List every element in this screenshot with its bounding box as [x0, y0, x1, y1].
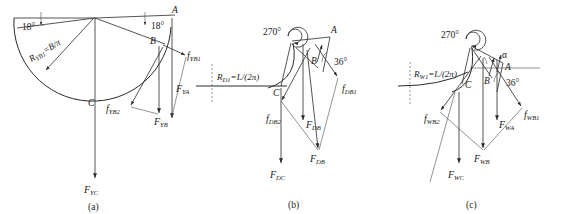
panel-b-radius-label: RD1=L/(2π) — [216, 72, 259, 83]
panel-a-parallelogram-1 — [131, 107, 158, 114]
figure-canvas: 18° 18° A B C RYB1=B/π fYB1 FYA FYB fYB2… — [0, 0, 562, 214]
panel-b-force-FDB-upper: FDB — [305, 119, 321, 131]
panel-a-angle-left: 18° — [22, 22, 36, 32]
panel-c-point-B: B — [484, 76, 490, 86]
panel-b-fDB2-vector — [282, 48, 310, 100]
panel-b-A-to-B — [323, 37, 330, 72]
panel-a-force-FYA: FYA — [175, 83, 190, 95]
panel-a-point-A: A — [171, 5, 178, 15]
panel-c-parallelogram-1 — [440, 112, 483, 150]
panel-a-radius-label: RYB1=B/π — [26, 37, 63, 65]
panel-c-fWB2-vector — [441, 56, 481, 110]
panel-b-curve — [268, 43, 294, 88]
panel-c-force-FWA: FWA — [498, 119, 515, 131]
panel-c-force-fWB2: fWB2 — [424, 113, 440, 125]
panel-c-point-C: C — [465, 80, 472, 90]
panel-b-force-fDB2: fDB2 — [266, 113, 282, 125]
svg-text:RYB1=B/π: RYB1=B/π — [26, 37, 63, 65]
panel-b-angle-270: 270° — [263, 27, 281, 37]
panel-a-radius-rest: =B/π — [41, 37, 62, 55]
panel-a-force-fYB2: fYB2 — [106, 103, 120, 115]
panel-c-caption: (c) — [466, 200, 477, 211]
panel-b-point-A: A — [330, 25, 337, 35]
panel-b-parallelogram-2 — [319, 78, 338, 150]
panel-a-caption: (a) — [88, 202, 99, 213]
panel-b-force-FDB-lower: FDB — [309, 153, 325, 165]
panel-b: 270° 36° A B C RD1=L/(2π) fDB1 FDB fDB2 … — [196, 25, 357, 211]
panel-b-top-chord — [292, 37, 330, 41]
panel-a-point-B: B — [150, 36, 156, 46]
panel-a-angle-right: 18° — [151, 21, 165, 31]
panel-b-apex-to-C — [281, 43, 291, 86]
panel-c-alpha-arc — [484, 57, 487, 64]
panel-b-angle-36: 36° — [334, 57, 348, 67]
panel-b-force-FDC: FDC — [269, 169, 286, 181]
panel-a-point-C: C — [88, 98, 95, 108]
panel-a-force-FYC: FYC — [83, 184, 99, 196]
panel-c: 270° α 36° A B C RW1=L/(2π) fWB1 FWA fWB… — [398, 30, 540, 211]
panel-c-force-FWB: FWB — [473, 153, 490, 165]
panel-a-top-chord — [14, 15, 175, 18]
panel-c-angle-270: 270° — [441, 30, 459, 40]
panel-b-point-B: B — [311, 56, 317, 66]
force-vector-figure: 18° 18° A B C RYB1=B/π fYB1 FYA FYB fYB2… — [0, 0, 562, 214]
panel-a-force-FYB: FYB — [153, 116, 168, 128]
panel-c-spiral-270 — [466, 30, 486, 50]
panel-c-force-fWB1: fWB1 — [524, 109, 540, 121]
panel-b-point-C: C — [273, 88, 280, 98]
panel-a-fYB2-vector — [131, 47, 163, 105]
panel-a-force-fYB1: fYB1 — [187, 50, 201, 62]
panel-a: 18° 18° A B C RYB1=B/π fYB1 FYA FYB fYB2… — [14, 5, 201, 213]
panel-c-angle-36: 36° — [506, 78, 520, 88]
panel-c-angle-alpha: α — [502, 50, 507, 60]
panel-c-point-A: A — [504, 62, 511, 72]
panel-b-caption: (b) — [288, 200, 299, 211]
panel-c-force-FWC: FWC — [447, 169, 465, 181]
panel-c-radius-label: RW1=L/(2π) — [413, 69, 457, 80]
panel-b-force-fDB1: fDB1 — [342, 83, 357, 95]
panel-c-apex-to-C — [462, 48, 470, 84]
